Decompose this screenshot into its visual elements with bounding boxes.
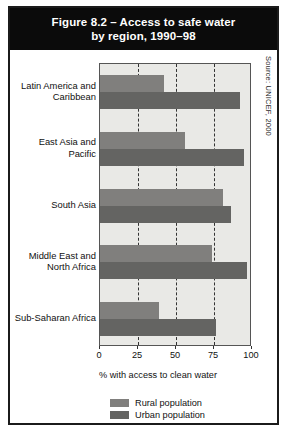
x-tick-label: 0 bbox=[96, 350, 101, 360]
x-tick-label: 25 bbox=[132, 350, 142, 360]
category-label: Latin America and Caribbean bbox=[14, 80, 96, 103]
legend-label: Urban population bbox=[135, 410, 205, 420]
bar-urban bbox=[100, 92, 240, 109]
x-axis: 0255075100 bbox=[99, 346, 251, 368]
category-label: Middle East and North Africa bbox=[14, 250, 96, 273]
bar-rural bbox=[100, 132, 185, 149]
bar-rural bbox=[100, 75, 164, 92]
x-tick bbox=[251, 346, 252, 349]
bar-rural bbox=[100, 189, 223, 206]
figure-title-bar: Figure 8.2 – Access to safe water by reg… bbox=[10, 8, 277, 50]
legend-swatch-icon bbox=[110, 411, 129, 419]
bar-urban bbox=[100, 262, 247, 279]
x-tick bbox=[213, 346, 214, 349]
chart-legend: Rural populationUrban population bbox=[110, 398, 205, 422]
bar-urban bbox=[100, 319, 216, 336]
category-label: East Asia and Pacific bbox=[14, 136, 96, 159]
x-tick-label: 100 bbox=[243, 350, 258, 360]
bar-urban bbox=[100, 149, 244, 166]
x-axis-title: % with access to clean water bbox=[99, 370, 259, 380]
legend-item: Urban population bbox=[110, 410, 205, 420]
figure-container: Figure 8.2 – Access to safe water by reg… bbox=[8, 6, 279, 425]
x-tick bbox=[137, 346, 138, 349]
x-tick bbox=[99, 346, 100, 349]
category-label: Sub-Saharan Africa bbox=[14, 312, 96, 324]
bar-urban bbox=[100, 206, 231, 223]
legend-label: Rural population bbox=[135, 398, 202, 408]
page-title: Figure 8.2 – Access to safe water by reg… bbox=[42, 15, 246, 43]
plot-box bbox=[99, 63, 251, 346]
legend-item: Rural population bbox=[110, 398, 205, 408]
bar-rural bbox=[100, 302, 159, 319]
category-label-layer: Latin America and CaribbeanEast Asia and… bbox=[10, 63, 96, 346]
chart-area: Latin America and CaribbeanEast Asia and… bbox=[10, 50, 277, 425]
x-tick-label: 75 bbox=[208, 350, 218, 360]
legend-swatch-icon bbox=[110, 399, 129, 407]
bar-rural bbox=[100, 245, 212, 262]
x-tick bbox=[175, 346, 176, 349]
category-label: South Asia bbox=[14, 199, 96, 211]
x-tick-label: 50 bbox=[170, 350, 180, 360]
